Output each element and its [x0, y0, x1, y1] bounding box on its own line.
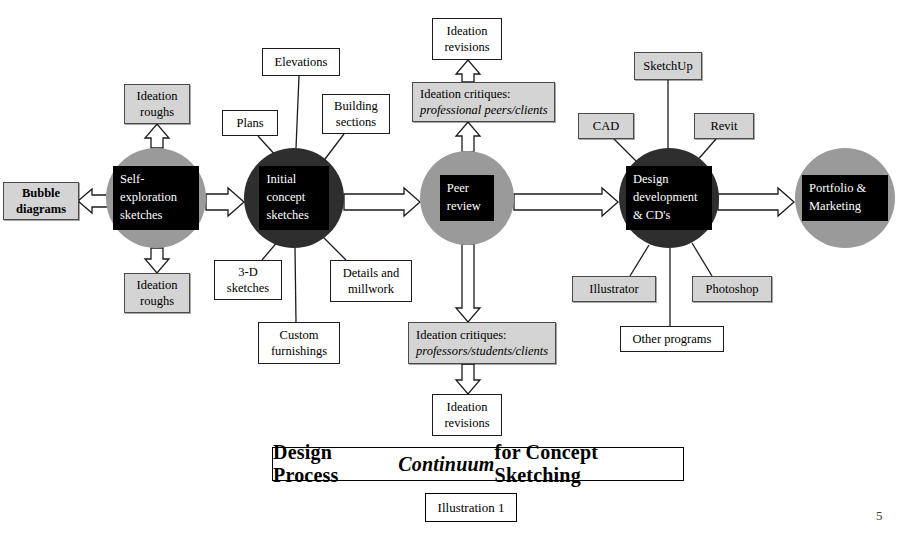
- title-text-part1: Design Process: [273, 441, 398, 487]
- label-box-elevations[interactable]: Elevations: [262, 48, 340, 76]
- label-box-cad[interactable]: CAD: [578, 113, 634, 139]
- arrow-critiques-professors-to-revisions: [456, 364, 480, 394]
- process-node-text: Initial concept sketches: [266, 171, 308, 224]
- label-box-text: Photoshop: [706, 281, 759, 297]
- label-box-text: Custom furnishings: [271, 327, 327, 359]
- label-box-text: Plans: [236, 115, 263, 131]
- label-box-3d-sketches[interactable]: 3-D sketches: [214, 260, 282, 300]
- diagram-title-banner: Design Process Continuum for Concept Ske…: [272, 447, 684, 481]
- critique-box-line2: professors/students/clients: [416, 343, 548, 359]
- process-node-text: Design development & CD's: [633, 171, 698, 224]
- label-box-illustrator[interactable]: Illustrator: [572, 276, 656, 302]
- label-box-text: SketchUp: [643, 58, 692, 74]
- arrow-self-exploration-to-initial-concept: [206, 188, 244, 216]
- title-text-part2: for Concept Sketching: [495, 441, 683, 487]
- label-box-revit[interactable]: Revit: [694, 113, 754, 139]
- label-box-text: Revit: [710, 118, 737, 134]
- arrow-design-development-to-portfolio: [718, 188, 794, 216]
- process-node-portfolio-marketing[interactable]: Portfolio & Marketing: [795, 148, 895, 248]
- process-node-label-self-exploration-sketches: Self- exploration sketches: [113, 166, 199, 230]
- critique-box-ideation-critiques-professors[interactable]: Ideation critiques:professors/students/c…: [408, 322, 556, 364]
- process-node-label-initial-concept-sketches: Initial concept sketches: [259, 166, 328, 230]
- diagram-page: Self- exploration sketchesInitial concep…: [0, 0, 922, 548]
- arrow-self-exploration-to-ideation-roughs-top: [145, 124, 169, 148]
- process-node-self-exploration-sketches[interactable]: Self- exploration sketches: [106, 148, 206, 248]
- label-box-building-sections[interactable]: Building sections: [322, 94, 390, 134]
- arrow-peer-review-to-critiques-professors: [456, 244, 480, 322]
- critique-box-line2: professional peers/clients: [420, 102, 548, 118]
- arrow-self-exploration-to-ideation-roughs-bottom: [145, 248, 169, 273]
- critique-box-line1: Ideation critiques:: [420, 86, 511, 102]
- label-box-text: CAD: [593, 118, 619, 134]
- process-node-initial-concept-sketches[interactable]: Initial concept sketches: [244, 148, 344, 248]
- critique-box-ideation-critiques-professional[interactable]: Ideation critiques:professional peers/cl…: [412, 82, 555, 122]
- process-node-peer-review[interactable]: Peer review: [420, 151, 514, 245]
- top-cropped-text-artifact: [0, 0, 922, 4]
- label-box-bubble-diagrams[interactable]: Bubble diagrams: [3, 182, 79, 220]
- label-box-plans[interactable]: Plans: [222, 110, 278, 136]
- label-box-custom-furnishings[interactable]: Custom furnishings: [258, 322, 340, 364]
- process-node-text: Self- exploration sketches: [120, 171, 177, 224]
- label-box-text: Building sections: [334, 98, 378, 130]
- line-elevations-to-initial-concept: [296, 76, 299, 148]
- process-node-label-design-development: Design development & CD's: [626, 166, 712, 230]
- label-box-details-and-millwork[interactable]: Details and millwork: [330, 260, 412, 302]
- label-box-sketchup[interactable]: SketchUp: [634, 52, 702, 80]
- process-node-design-development[interactable]: Design development & CD's: [619, 148, 719, 248]
- label-box-text: Details and millwork: [343, 265, 400, 297]
- label-box-text: Other programs: [633, 331, 712, 347]
- arrow-initial-concept-to-peer-review: [344, 188, 420, 216]
- process-node-text: Portfolio & Marketing: [809, 180, 866, 216]
- label-box-other-programs[interactable]: Other programs: [620, 326, 724, 352]
- label-box-text: Elevations: [275, 54, 328, 70]
- label-box-text: Ideation roughs: [137, 277, 178, 309]
- label-box-text: Ideation roughs: [137, 88, 178, 120]
- label-box-text: Ideation revisions: [444, 399, 489, 431]
- label-box-photoshop[interactable]: Photoshop: [692, 276, 772, 302]
- arrow-peer-review-to-critiques-professional: [456, 122, 480, 152]
- label-box-text: Bubble diagrams: [16, 185, 66, 217]
- label-box-ideation-revisions-top[interactable]: Ideation revisions: [432, 18, 502, 60]
- label-box-ideation-roughs-top-left[interactable]: Ideation roughs: [124, 84, 190, 124]
- arrow-peer-review-to-design-development: [514, 188, 618, 216]
- process-node-text: Peer review: [447, 180, 481, 216]
- process-node-label-peer-review: Peer review: [440, 175, 494, 221]
- label-box-ideation-roughs-bottom-left[interactable]: Ideation roughs: [124, 273, 190, 313]
- illustration-caption: Illustration 1: [425, 493, 517, 522]
- label-box-text: Ideation revisions: [444, 23, 489, 55]
- title-text-italic: Continuum: [398, 453, 494, 476]
- label-box-text: 3-D sketches: [227, 264, 269, 296]
- arrow-critiques-professional-to-revisions: [456, 60, 480, 82]
- line-custom-furnishings-to-initial-concept: [295, 248, 296, 322]
- label-box-text: Illustrator: [589, 281, 638, 297]
- line-photoshop-to-design-development: [692, 243, 712, 276]
- label-box-ideation-revisions-bottom[interactable]: Ideation revisions: [432, 394, 502, 436]
- arrow-self-exploration-to-bubble-diagrams: [78, 189, 108, 213]
- page-number: 5: [876, 508, 883, 524]
- process-node-label-portfolio-marketing: Portfolio & Marketing: [802, 175, 888, 221]
- critique-box-line1: Ideation critiques:: [416, 327, 507, 343]
- line-illustrator-to-design-development: [630, 245, 649, 276]
